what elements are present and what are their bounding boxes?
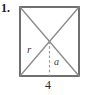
radius-label: r (27, 44, 31, 55)
geometry-figure: 1. r a 4 (0, 0, 93, 95)
apothem-label: a (54, 57, 59, 67)
side-length-label: 4 (45, 79, 51, 91)
